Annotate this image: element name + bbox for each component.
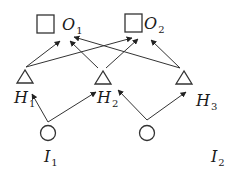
input-node-i2 <box>140 126 155 141</box>
label-h2: H2 <box>96 88 118 109</box>
edge-i2-h3 <box>147 92 186 120</box>
edge-i2-h2 <box>118 90 147 120</box>
input-node-i1 <box>41 126 56 141</box>
label-h1: H1 <box>13 88 35 109</box>
edge-h1-o1 <box>26 41 60 67</box>
edge-i1-h2 <box>48 92 96 122</box>
label-i1: I1 <box>43 147 58 168</box>
hidden-node-h1 <box>17 70 33 83</box>
label-o1: O1 <box>62 15 83 36</box>
edge-h2-o1 <box>70 41 98 68</box>
edge-h1-o2 <box>26 38 132 67</box>
label-h3: H3 <box>195 91 217 112</box>
label-i2: I2 <box>210 147 225 168</box>
hidden-node-h3 <box>176 71 192 84</box>
hidden-node-h2 <box>95 71 111 84</box>
output-node-o1 <box>37 15 54 33</box>
network-diagram: O1 O2 H1 H2 H3 I1 I2 <box>0 0 235 176</box>
output-node-o2 <box>125 14 142 32</box>
label-o2: O2 <box>144 14 165 35</box>
